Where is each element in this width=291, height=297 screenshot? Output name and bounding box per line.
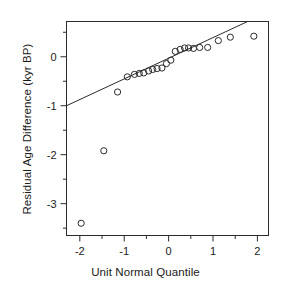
y-axis-ticks: 0-1-2-3: [47, 32, 67, 228]
y-tick-label: -2: [47, 149, 57, 161]
data-points: [78, 33, 257, 226]
reference-line: [67, 22, 248, 106]
data-point: [114, 89, 120, 95]
qq-reference-line: [67, 22, 248, 106]
y-tick-label: -1: [47, 100, 57, 112]
x-tick-label: 1: [210, 245, 216, 257]
x-tick-label: 0: [166, 245, 172, 257]
data-point: [205, 44, 211, 50]
x-tick-label: 2: [254, 245, 260, 257]
data-point: [251, 33, 257, 39]
data-point: [150, 66, 156, 72]
x-tick-label: -2: [75, 245, 85, 257]
plot-canvas: -2-1012 0-1-2-3: [0, 0, 291, 297]
data-point: [168, 57, 174, 63]
data-point: [101, 148, 107, 154]
data-point: [197, 44, 203, 50]
data-point: [215, 37, 221, 43]
plot-frame: [67, 22, 269, 236]
data-point: [227, 34, 233, 40]
data-point: [163, 61, 169, 67]
data-point: [78, 220, 84, 226]
x-tick-label: -1: [119, 245, 129, 257]
qq-plot-figure: Residual Age Difference (kyr BP) Unit No…: [0, 0, 291, 297]
axes-box: [67, 22, 269, 236]
y-tick-label: -3: [47, 198, 57, 210]
x-axis-ticks: -2-1012: [75, 236, 261, 257]
y-tick-label: 0: [50, 51, 56, 63]
